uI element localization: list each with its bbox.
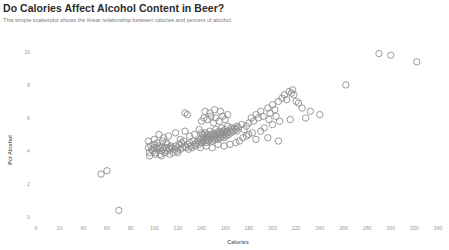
x-tick-label: 220 [292, 225, 301, 231]
scatter-point[interactable] [116, 207, 122, 213]
scatter-point[interactable] [299, 105, 305, 111]
scatter-point[interactable] [211, 106, 217, 112]
scatterplot-svg[interactable]: 0246810 02040608010012014016018020022024… [0, 30, 449, 250]
scatter-point[interactable] [307, 108, 313, 114]
scatter-point[interactable] [343, 82, 349, 88]
chart-header: Do Calories Affect Alcohol Content in Be… [3, 2, 443, 24]
scatter-point[interactable] [215, 141, 221, 147]
chart-container: Do Calories Affect Alcohol Content in Be… [0, 0, 449, 250]
scatter-point[interactable] [98, 171, 104, 177]
x-axis-title: Calories [227, 239, 248, 245]
scatter-point[interactable] [287, 116, 293, 122]
x-tick-label: 240 [315, 225, 324, 231]
x-axis: 0204060801001201401601802002202402602803… [35, 225, 443, 231]
scatter-point[interactable] [156, 131, 162, 137]
y-tick-label: 4 [27, 148, 30, 154]
scatter-point[interactable] [221, 143, 227, 149]
x-tick-label: 20 [57, 225, 63, 231]
x-tick-label: 160 [221, 225, 230, 231]
scatter-point[interactable] [265, 135, 271, 141]
x-tick-label: 40 [80, 225, 86, 231]
y-tick-label: 10 [24, 49, 30, 55]
x-tick-label: 140 [197, 225, 206, 231]
scatter-point[interactable] [182, 128, 188, 134]
x-tick-label: 340 [434, 225, 443, 231]
x-tick-label: 320 [410, 225, 419, 231]
scatter-point[interactable] [104, 168, 110, 174]
y-tick-label: 8 [27, 82, 30, 88]
scatter-point[interactable] [317, 111, 323, 117]
chart-subtitle: This simple scatterplot shows the linear… [3, 16, 443, 24]
chart-title: Do Calories Affect Alcohol Content in Be… [3, 2, 443, 14]
y-tick-label: 0 [27, 214, 30, 220]
scatter-point[interactable] [414, 59, 420, 65]
plot-area: 0246810 02040608010012014016018020022024… [0, 30, 449, 250]
scatter-point[interactable] [209, 144, 215, 150]
scatter-point[interactable] [227, 141, 233, 147]
x-tick-label: 200 [268, 225, 277, 231]
x-tick-label: 120 [174, 225, 183, 231]
scatter-point[interactable] [269, 121, 275, 127]
x-tick-label: 280 [363, 225, 372, 231]
x-tick-label: 0 [35, 225, 38, 231]
x-tick-label: 180 [245, 225, 254, 231]
scatter-point[interactable] [376, 50, 382, 56]
scatter-point[interactable] [388, 52, 394, 58]
scatter-point[interactable] [276, 118, 282, 124]
x-tick-label: 60 [104, 225, 110, 231]
scatter-point[interactable] [253, 136, 259, 142]
x-tick-label: 80 [128, 225, 134, 231]
scatter-point[interactable] [275, 138, 281, 144]
scatter-point[interactable] [302, 115, 308, 121]
y-axis: 0246810 [24, 49, 30, 220]
scatter-point[interactable] [172, 130, 178, 136]
points-layer [98, 50, 420, 213]
x-tick-label: 260 [339, 225, 348, 231]
x-tick-label: 100 [150, 225, 159, 231]
y-tick-label: 6 [27, 115, 30, 121]
x-tick-label: 300 [386, 225, 395, 231]
y-axis-title: Pct Alcohol [7, 135, 13, 165]
y-tick-label: 2 [27, 181, 30, 187]
